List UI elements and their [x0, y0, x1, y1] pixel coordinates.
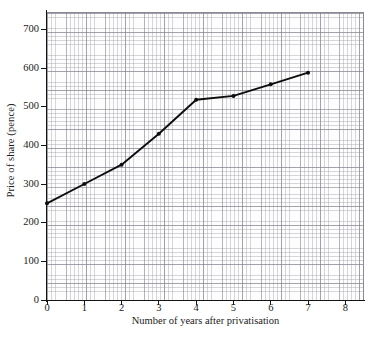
y-tick-mark: [41, 184, 47, 185]
y-tick-label: 700: [8, 24, 39, 34]
y-tick-label: 600: [8, 63, 39, 73]
y-tick-mark: [41, 261, 47, 262]
x-tick-label: 6: [261, 302, 281, 314]
x-tick-label: 2: [112, 302, 132, 314]
y-tick-mark: [41, 68, 47, 69]
y-tick-label: 400: [8, 140, 39, 150]
y-tick-mark: [41, 29, 47, 30]
plot-area: [47, 12, 364, 300]
y-tick-label: 300: [8, 179, 39, 189]
x-tick-label: 3: [149, 302, 169, 314]
x-tick-label: 5: [223, 302, 243, 314]
y-tick-label: 100: [8, 256, 39, 266]
x-tick-label: 1: [74, 302, 94, 314]
y-tick-mark: [41, 222, 47, 223]
x-tick-label: 8: [335, 302, 355, 314]
x-tick-label: 0: [37, 302, 57, 314]
y-tick-label: 0: [8, 295, 39, 305]
y-tick-mark: [41, 106, 47, 107]
x-tick-label: 7: [298, 302, 318, 314]
x-tick-label: 4: [186, 302, 206, 314]
y-tick-label: 200: [8, 217, 39, 227]
y-axis-line: [46, 10, 47, 302]
y-tick-label: 500: [8, 101, 39, 111]
chart-figure: Price of share (pence) 01002003004005006…: [0, 0, 384, 337]
y-tick-mark: [41, 145, 47, 146]
x-axis-title: Number of years after privatisation: [47, 315, 364, 326]
